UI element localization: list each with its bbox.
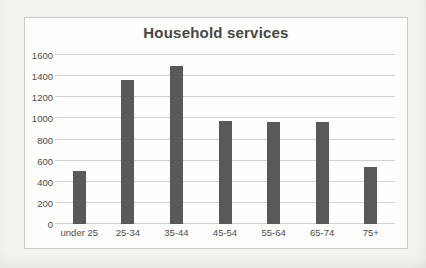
scanned-page: Household services 020040060080010001200… <box>0 0 426 268</box>
bar-slot <box>249 55 298 224</box>
bar-55-64 <box>267 122 280 224</box>
y-tick-label-600: 600 <box>37 155 53 166</box>
chart-title: Household services <box>25 24 407 41</box>
bar-35-44 <box>170 66 183 224</box>
y-tick-label-400: 400 <box>37 176 53 187</box>
bar-45-54 <box>219 121 232 224</box>
y-tick-label-0: 0 <box>48 219 53 230</box>
plot-area <box>55 55 395 224</box>
x-tick-label-25-34: 25-34 <box>104 227 153 238</box>
bar-slot <box>104 55 153 224</box>
bar-65-74 <box>316 122 329 224</box>
bar-under-25 <box>73 171 86 224</box>
bars <box>55 55 395 224</box>
y-tick-label-1600: 1600 <box>32 50 53 61</box>
y-tick-label-200: 200 <box>37 197 53 208</box>
y-axis-labels: 02004006008001000120014001600 <box>27 55 53 224</box>
bar-slot <box>152 55 201 224</box>
bar-75plus <box>364 167 377 224</box>
x-tick-label-under-25: under 25 <box>55 227 104 238</box>
y-tick-label-1000: 1000 <box>32 113 53 124</box>
x-tick-label-35-44: 35-44 <box>152 227 201 238</box>
bar-slot <box>55 55 104 224</box>
x-tick-label-75plus: 75+ <box>346 227 395 238</box>
bar-slot <box>346 55 395 224</box>
bar-chart: Household services 020040060080010001200… <box>24 17 408 249</box>
bar-slot <box>298 55 347 224</box>
bar-25-34 <box>121 80 134 224</box>
bar-slot <box>201 55 250 224</box>
x-tick-label-65-74: 65-74 <box>298 227 347 238</box>
y-tick-label-1400: 1400 <box>32 71 53 82</box>
y-tick-label-800: 800 <box>37 134 53 145</box>
x-tick-label-55-64: 55-64 <box>249 227 298 238</box>
x-axis-labels: under 2525-3435-4445-5455-6465-7475+ <box>55 227 395 238</box>
y-tick-label-1200: 1200 <box>32 92 53 103</box>
x-tick-label-45-54: 45-54 <box>201 227 250 238</box>
